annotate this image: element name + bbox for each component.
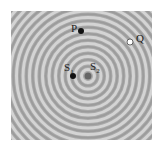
wave-rings: [11, 11, 152, 140]
point-p-marker: [78, 28, 84, 34]
point-label-q: Q: [136, 33, 144, 44]
interference-pattern-figure: [11, 11, 152, 140]
source-label-s2: S2: [90, 61, 100, 75]
point-q-marker: [127, 39, 133, 45]
source-label-s1: S1: [64, 62, 74, 76]
point-label-p: P: [71, 23, 77, 34]
